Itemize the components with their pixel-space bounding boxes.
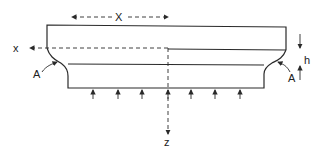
left-fillet-label: A [33,68,41,80]
right-fillet-label: A [288,72,296,84]
z-axis-label: z [164,136,170,148]
left-fillet [47,48,68,76]
right-fillet [264,50,286,74]
upper-block-base [168,49,286,50]
upper-block [47,25,286,50]
right-fillet-leader [278,62,290,72]
distributed-load-arrows [93,90,240,99]
dimension-X-label: X [115,11,123,23]
beam-diagram: x z X A A h [0,0,320,153]
height-label: h [304,54,310,66]
lower-block [68,64,264,88]
x-axis-label: x [13,42,19,54]
diagram-canvas: x z X A A h [0,0,320,153]
left-fillet-leader [42,62,57,72]
